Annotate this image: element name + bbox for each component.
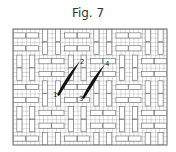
label-3: 3: [79, 95, 83, 103]
basketweave-diagram: 1 2 3 4: [0, 0, 176, 152]
label-1: 1: [53, 91, 57, 99]
label-2: 2: [80, 58, 84, 66]
label-4: 4: [105, 60, 110, 68]
